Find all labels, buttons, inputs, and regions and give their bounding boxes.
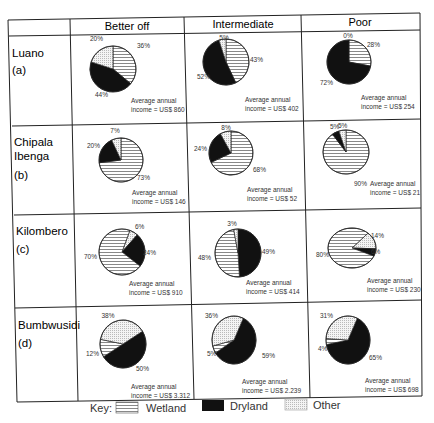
column-header-poor: Poor bbox=[348, 16, 372, 28]
income-label-line1: Average annual bbox=[370, 180, 416, 188]
income-label-value: income = US$ 52 bbox=[247, 195, 297, 202]
pie-percent-label-dryland: 24% bbox=[194, 145, 207, 152]
income-label-line1: Average annual bbox=[129, 280, 175, 288]
income-label-line1: Average annual bbox=[365, 377, 411, 385]
pie-percent-label-dryland: 65% bbox=[369, 354, 382, 361]
pie-percent-label-dryland: 52% bbox=[197, 73, 210, 80]
row-id-a: (a) bbox=[12, 64, 26, 76]
pie-percent-label-other: 5% bbox=[338, 122, 348, 129]
pie-percent-label-dryland: 50% bbox=[136, 365, 149, 372]
pie-percent-label-wetland: 68% bbox=[253, 166, 266, 173]
pie-8: 3%49%48%Average annualincome = US$ 414 bbox=[198, 220, 300, 295]
pie-5: 8%24%68%Average annualincome = US$ 52 bbox=[194, 124, 297, 202]
income-label-line1: Average annual bbox=[367, 277, 413, 285]
row-id-b: (b) bbox=[14, 169, 28, 181]
pie-percent-label-wetland: 48% bbox=[198, 254, 211, 261]
pie-3: 0%28%72%Average annualincome = US$ 254 bbox=[320, 32, 415, 110]
pie-percent-label-wetland: 28% bbox=[367, 41, 380, 48]
income-label-value: income = US$ 3.312 bbox=[131, 392, 190, 399]
legend-swatch-dryland bbox=[202, 400, 224, 411]
pie-percent-label-dryland: 44% bbox=[95, 91, 108, 98]
income-label-line1: Average annual bbox=[246, 279, 292, 287]
income-label-line1: Average annual bbox=[245, 96, 291, 104]
income-label-value: income = US$ 21 bbox=[370, 189, 420, 196]
income-label-value: income = US$ 2.239 bbox=[242, 387, 301, 394]
pie-11: 36%5%59%Average annualincome = US$ 2.239 bbox=[205, 312, 301, 394]
pie-percent-label-dryland: 6% bbox=[371, 248, 381, 255]
pie-percent-label-wetland: 4% bbox=[318, 345, 328, 352]
pie-percent-label-wetland: 5% bbox=[207, 350, 217, 357]
income-label-value: income = US$ 698 bbox=[365, 386, 419, 393]
pie-6: 5%5%90%Average annualincome = US$ 21 bbox=[323, 122, 420, 196]
income-label-value: income = US$ 230 bbox=[367, 286, 421, 293]
column-header-intermediate: Intermediate bbox=[212, 18, 273, 30]
row-id-d: (d) bbox=[18, 337, 32, 349]
row-label-bumbwusidi: Bumbwusidi bbox=[18, 319, 80, 331]
income-label-value: income = US$ 860 bbox=[131, 106, 185, 113]
row-label-kilombero: Kilombero bbox=[16, 225, 68, 237]
pie-12: 31%4%65%Average annualincome = US$ 698 bbox=[318, 312, 419, 393]
pie-percent-label-wetland: 90% bbox=[354, 180, 367, 187]
income-label-line1: Average annual bbox=[361, 94, 407, 102]
income-label-line1: Average annual bbox=[247, 186, 293, 194]
row-label-luano: Luano bbox=[12, 47, 44, 59]
row-label-chipala: Chipala bbox=[14, 136, 54, 148]
income-label-value: income = US$ 414 bbox=[246, 288, 300, 295]
pie-percent-label-other: 31% bbox=[320, 312, 333, 319]
pie-percent-label-other: 8% bbox=[221, 124, 231, 131]
pie-percent-label-other: 6% bbox=[135, 223, 145, 230]
pie-percent-label-dryland: 49% bbox=[262, 248, 275, 255]
legend: Key: Wetland Dryland Other bbox=[90, 399, 341, 414]
column-header-better-off: Better off bbox=[105, 20, 150, 32]
legend-label-other: Other bbox=[313, 399, 341, 411]
pie-percent-label-other: 3% bbox=[227, 220, 237, 227]
pie-percent-label-wetland: 43% bbox=[250, 56, 263, 63]
income-label-line1: Average annual bbox=[131, 383, 177, 391]
pie-percent-label-other: 5% bbox=[219, 34, 229, 41]
legend-title: Key: bbox=[90, 402, 112, 414]
income-label-value: income = US$ 910 bbox=[129, 289, 183, 296]
pie-percent-label-wetland: 70% bbox=[84, 253, 97, 260]
pie-10: 38%12%50%Average annualincome = US$ 3.31… bbox=[86, 312, 190, 399]
income-label-value: income = US$ 146 bbox=[132, 198, 186, 205]
pie-percent-label-other: 36% bbox=[205, 312, 218, 319]
pie-percent-label-wetland: 36% bbox=[137, 42, 150, 49]
row-id-c: (c) bbox=[16, 243, 30, 255]
pie-2: 5%43%52%Average annualincome = US$ 402 bbox=[197, 34, 299, 112]
pie-9: 14%6%80%Average annualincome = US$ 230 bbox=[316, 228, 421, 293]
legend-swatch-other bbox=[285, 399, 307, 410]
pie-percent-label-dryland: 20% bbox=[87, 142, 100, 149]
income-label-line1: Average annual bbox=[131, 97, 177, 105]
income-pie-chart-figure: Better off Intermediate Poor Luano (a) C… bbox=[0, 0, 434, 423]
pie-percent-label-wetland: 73% bbox=[137, 174, 150, 181]
pie-percent-label-other: 20% bbox=[90, 35, 103, 42]
legend-swatch-wetland bbox=[116, 402, 138, 413]
pie-percent-label-wetland: 80% bbox=[316, 251, 329, 258]
row-label-ibenga: Ibenga bbox=[14, 150, 50, 162]
legend-label-dryland: Dryland bbox=[230, 400, 268, 412]
pie-percent-label-dryland: 59% bbox=[262, 352, 275, 359]
pie-charts: 20%36%44%Average annualincome = US$ 8605… bbox=[84, 32, 421, 399]
income-label-value: income = US$ 254 bbox=[361, 103, 415, 110]
pie-percent-label-dryland: 72% bbox=[320, 79, 333, 86]
pie-percent-label-other: 14% bbox=[371, 232, 384, 239]
pie-percent-label-other: 38% bbox=[101, 312, 114, 319]
pie-percent-label-wetland: 12% bbox=[86, 350, 99, 357]
pie-7: 6%24%70%Average annualincome = US$ 910 bbox=[84, 223, 183, 296]
pie-percent-label-other: 0% bbox=[343, 32, 353, 39]
income-label-value: income = US$ 402 bbox=[245, 105, 299, 112]
pie-4: 7%20%73%Average annualincome = US$ 146 bbox=[87, 127, 186, 205]
pie-slice-dryland bbox=[238, 229, 261, 277]
pie-1: 20%36%44%Average annualincome = US$ 860 bbox=[90, 35, 185, 113]
income-label-line1: Average annual bbox=[242, 378, 288, 386]
legend-label-wetland: Wetland bbox=[146, 402, 186, 414]
pie-percent-label-other: 7% bbox=[110, 127, 120, 134]
pie-percent-label-dryland: 24% bbox=[143, 249, 156, 256]
income-label-line1: Average annual bbox=[132, 189, 178, 197]
